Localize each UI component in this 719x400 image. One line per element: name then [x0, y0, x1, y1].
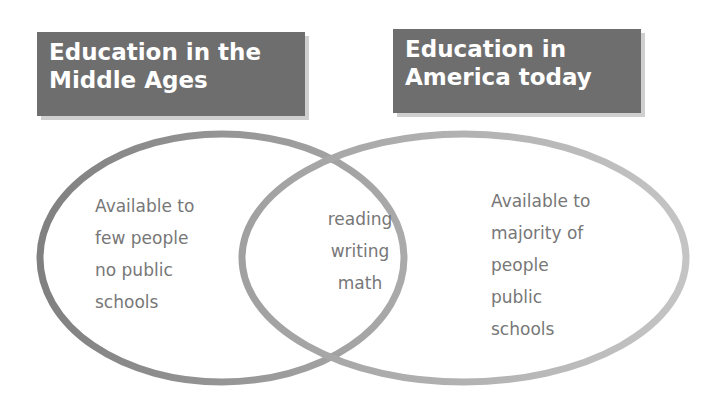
right-item: people [491, 249, 590, 281]
left-item: no public [95, 254, 194, 286]
intersection-item: math [305, 267, 415, 299]
left-item: Available to [95, 190, 194, 222]
intersection-item: writing [305, 235, 415, 267]
right-set-title: Education in America today [393, 29, 641, 113]
left-title-line-2: Middle Ages [49, 66, 295, 94]
right-title-line-2: America today [405, 63, 631, 91]
right-item: schools [491, 313, 590, 345]
right-item: majority of [491, 217, 590, 249]
right-set-items: Available to majority of people public s… [491, 185, 590, 345]
left-set-items: Available to few people no public school… [95, 190, 194, 318]
left-item: few people [95, 222, 194, 254]
left-title-line-1: Education in the [49, 38, 295, 66]
right-item: public [491, 281, 590, 313]
intersection-item: reading [305, 203, 415, 235]
right-item: Available to [491, 185, 590, 217]
left-item: schools [95, 286, 194, 318]
intersection-items: reading writing math [305, 203, 415, 299]
right-title-line-1: Education in [405, 35, 631, 63]
left-set-title: Education in the Middle Ages [37, 32, 305, 116]
